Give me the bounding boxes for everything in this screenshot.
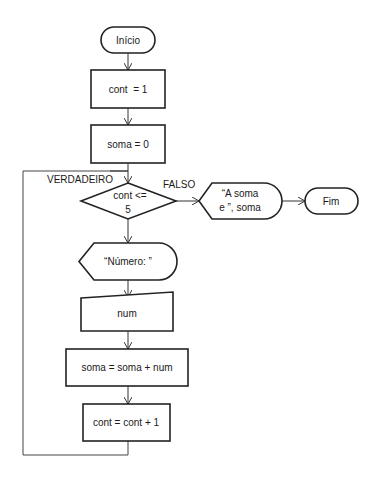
accumulate-label: soma = soma + num <box>81 362 172 373</box>
init-cont-label: cont = 1 <box>109 84 148 95</box>
end-label: Fim <box>323 196 340 207</box>
flowchart: Início cont = 1 soma = 0 VERDADEIRO FALS… <box>0 0 379 481</box>
start-terminal: Início <box>101 27 155 53</box>
process-init-cont: cont = 1 <box>91 70 165 108</box>
process-init-soma: soma = 0 <box>91 125 165 163</box>
decision-label-line2: 5 <box>125 204 131 215</box>
input-num: num <box>81 292 173 331</box>
display-sum-line1: “A soma <box>222 188 259 199</box>
display-sum-line2: e ”, soma <box>219 202 261 213</box>
init-soma-label: soma = 0 <box>107 139 149 150</box>
prompt-label: “Número: ” <box>104 256 152 267</box>
process-accumulate: soma = soma + num <box>66 349 188 386</box>
false-label: FALSO <box>163 179 195 190</box>
end-terminal: Fim <box>305 188 358 214</box>
display-prompt: “Número: ” <box>79 243 177 280</box>
process-increment: cont = cont + 1 <box>83 404 170 441</box>
display-sum: “A soma e ”, soma <box>199 183 282 219</box>
start-label: Início <box>116 35 140 46</box>
decision-cont-le-5: cont <= 5 <box>81 183 176 219</box>
input-label: num <box>117 308 136 319</box>
decision-label-line1: cont <= <box>113 190 147 201</box>
increment-label: cont = cont + 1 <box>93 417 160 428</box>
true-label: VERDADEIRO <box>47 174 113 185</box>
